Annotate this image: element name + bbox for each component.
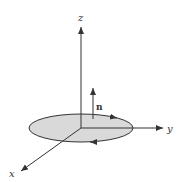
z-axis-label: z [77, 12, 84, 23]
x-axis-label: x [9, 168, 15, 179]
coordinate-diagram: z y x n [0, 0, 183, 182]
y-axis-label: y [166, 123, 173, 134]
diagram-canvas: z y x n [0, 0, 183, 182]
normal-vector-label: n [96, 102, 103, 112]
